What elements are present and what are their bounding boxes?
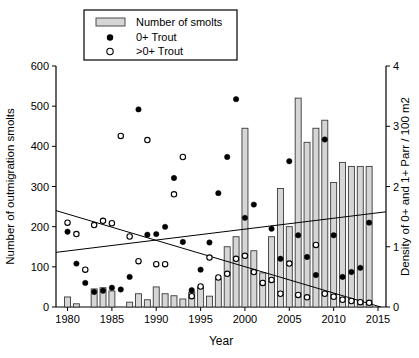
bar-2008	[313, 128, 319, 307]
bar-1993	[180, 299, 186, 307]
dot-gt0plus-2004	[278, 291, 283, 296]
dot-0plus-1984	[100, 288, 105, 293]
dot-gt0plus-2011	[340, 297, 345, 302]
legend-label-0plus-trout: 0+ Trout	[136, 31, 177, 43]
dot-0plus-2011	[340, 274, 345, 279]
dot-gt0plus-1996	[207, 255, 212, 260]
dot-0plus-2007	[304, 254, 309, 259]
dot-0plus-2005	[287, 158, 292, 163]
bar-1999	[233, 237, 239, 307]
dot-gt0plus-2007	[304, 295, 309, 300]
dot-gt0plus-2006	[295, 292, 300, 297]
y-right-tick-label: 0	[393, 301, 399, 313]
dot-gt0plus-1999	[233, 256, 238, 261]
dot-gt0plus-1993	[180, 154, 185, 159]
dot-gt0plus-1998	[225, 271, 230, 276]
bar-1990	[153, 287, 159, 307]
legend-bar-swatch-icon	[96, 18, 125, 26]
dot-0plus-1982	[83, 280, 88, 285]
dot-0plus-1991	[162, 224, 167, 229]
x-axis-label: Year	[209, 334, 233, 348]
dot-gt0plus-1985	[109, 221, 114, 226]
y-left-tick-label: 400	[31, 140, 49, 152]
dot-0plus-1995	[198, 267, 203, 272]
dot-0plus-2006	[295, 233, 300, 238]
dot-0plus-1986	[118, 287, 123, 292]
dot-gt0plus-2005	[287, 261, 292, 266]
y-left-tick-label: 200	[31, 221, 49, 233]
dot-gt0plus-1986	[118, 133, 123, 138]
bar-1992	[171, 296, 177, 307]
y-left-tick-label: 500	[31, 100, 49, 112]
dot-0plus-1989	[145, 232, 150, 237]
x-tick-label: 2000	[233, 313, 257, 325]
bar-2009	[322, 120, 328, 307]
bar-1997	[215, 279, 221, 307]
bar-2012	[348, 166, 354, 307]
bar-2007	[304, 142, 310, 307]
bar-1989	[144, 300, 150, 307]
dot-gt0plus-2010	[331, 294, 336, 299]
dot-0plus-1988	[136, 107, 141, 112]
dot-0plus-1999	[233, 96, 238, 101]
dot-gt0plus-2013	[358, 299, 363, 304]
dot-0plus-1993	[180, 239, 185, 244]
bar-1996	[206, 296, 212, 307]
dot-0plus-1992	[171, 175, 176, 180]
y-right-tick-label: 4	[393, 60, 399, 72]
dot-gt0plus-2003	[269, 277, 274, 282]
bar-1980	[65, 297, 71, 307]
legend-label-gt0plus-trout: >0+ Trout	[136, 45, 183, 57]
x-tick-label: 2010	[321, 313, 345, 325]
dot-gt0plus-2009	[322, 291, 327, 296]
chart-canvas: 0100200300400500600012341980198519901995…	[0, 0, 419, 358]
dot-0plus-2014	[366, 220, 371, 225]
dot-gt0plus-1988	[136, 259, 141, 264]
dot-0plus-1998	[225, 154, 230, 159]
dot-gt0plus-2012	[349, 298, 354, 303]
dot-gt0plus-1997	[216, 275, 221, 280]
x-tick-label: 1980	[55, 313, 79, 325]
y-left-tick-label: 0	[43, 301, 49, 313]
dot-0plus-2000	[242, 215, 247, 220]
dot-0plus-2010	[331, 233, 336, 238]
dot-gt0plus-2000	[242, 253, 247, 258]
bar-2014	[366, 166, 372, 307]
dot-gt0plus-1989	[145, 137, 150, 142]
dot-0plus-2012	[349, 269, 354, 274]
dot-gt0plus-2001	[251, 269, 256, 274]
dot-gt0plus-1990	[154, 262, 159, 267]
dot-0plus-2001	[251, 202, 256, 207]
dot-0plus-1987	[127, 274, 132, 279]
bar-2001	[251, 251, 257, 307]
dot-0plus-2004	[278, 256, 283, 261]
x-tick-label: 1990	[144, 313, 168, 325]
bar-2013	[357, 166, 363, 307]
bar-1981	[73, 304, 79, 307]
dot-gt0plus-1982	[83, 267, 88, 272]
dot-0plus-1981	[74, 261, 79, 266]
dot-gt0plus-1995	[198, 284, 203, 289]
dot-0plus-1990	[154, 231, 159, 236]
dot-0plus-1994	[189, 287, 194, 292]
y-left-tick-label: 100	[31, 261, 49, 273]
bar-1988	[136, 294, 142, 307]
y-left-tick-label: 600	[31, 60, 49, 72]
dot-0plus-1980	[65, 229, 70, 234]
dot-0plus-1997	[216, 190, 221, 195]
y-left-tick-label: 300	[31, 181, 49, 193]
bar-2002	[260, 273, 266, 307]
dot-gt0plus-2002	[260, 280, 265, 285]
dot-gt0plus-1987	[127, 234, 132, 239]
dot-gt0plus-1994	[189, 293, 194, 298]
y-right-axis-label: Density of 0+ and 1+ Parr / 100 m2	[399, 97, 411, 276]
dot-gt0plus-2008	[313, 242, 318, 247]
bar-1995	[198, 287, 204, 307]
x-tick-label: 1995	[188, 313, 212, 325]
dot-0plus-1983	[91, 289, 96, 294]
x-tick-label: 2005	[277, 313, 301, 325]
dot-gt0plus-2014	[366, 300, 371, 305]
dot-0plus-1996	[207, 240, 212, 245]
x-tick-label: 2015	[366, 313, 390, 325]
legend-label-smolts: Number of smolts	[136, 16, 223, 28]
